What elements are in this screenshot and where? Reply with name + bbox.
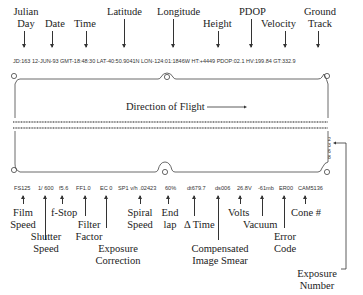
label-line: Speed — [28, 243, 64, 254]
value-end-lap: 60% — [165, 185, 176, 191]
exposure-digit: 8 — [328, 154, 331, 160]
label-longitude: Longitude — [157, 6, 200, 17]
label-julian-day: Julian Day — [11, 6, 41, 29]
arrow-error-code — [284, 196, 285, 228]
label-ground-line1: Ground — [300, 6, 340, 17]
label-line: Filter — [72, 219, 106, 230]
label-delta-time: Δ Time — [184, 219, 215, 230]
label-f-stop: f-Stop — [51, 207, 77, 218]
arrow-date — [52, 31, 53, 47]
arrow-filter-factor — [85, 196, 86, 216]
label-julian-line1: Julian — [11, 6, 41, 17]
value-shutter-speed: 1/ 600 — [38, 185, 54, 191]
label-ground-track: Ground Track — [300, 6, 340, 29]
label-line: Error — [270, 231, 300, 242]
arrow-cone — [305, 196, 306, 204]
arrow-longitude — [173, 19, 174, 47]
label-error-code: Error Code — [270, 231, 300, 254]
top-data-strip: JD:163 12-JUN-93 GMT-18:48:30 LAT-40:50.… — [13, 58, 296, 64]
label-line: lap — [160, 219, 180, 230]
arrow-julian-day — [24, 31, 25, 47]
label-line: Speed — [123, 219, 157, 230]
arrow-spiral-speed — [140, 196, 141, 204]
label-line: Compensated — [190, 243, 250, 254]
arrow-delta-time — [194, 196, 195, 216]
label-line: Speed — [8, 219, 38, 230]
label-pdop: PDOP — [239, 6, 266, 17]
label-line: Shutter — [28, 231, 64, 242]
value-f-stop: f5.6 — [59, 185, 68, 191]
label-line: Code — [270, 243, 300, 254]
arrow-ground-track — [318, 31, 319, 47]
value-delta-time: dt679.7 — [187, 185, 206, 191]
label-date: Date — [45, 18, 65, 29]
label-cone: Cone # — [291, 207, 321, 218]
label-line: Correction — [93, 255, 143, 266]
arrow-end-lap — [168, 196, 169, 204]
label-line: Factor — [72, 231, 106, 242]
label-line: Exposure — [93, 243, 143, 254]
arrow-volts — [240, 196, 241, 204]
value-ims: ds006 — [215, 185, 230, 191]
label-latitude: Latitude — [107, 6, 142, 17]
arrow-height — [218, 31, 219, 47]
arrow-vacuum — [262, 196, 263, 216]
label-ground-line2: Track — [300, 18, 340, 29]
value-cone: CAM5136 — [298, 185, 323, 191]
label-line: Image Smear — [190, 255, 250, 266]
label-velocity: Velocity — [261, 18, 296, 29]
label-end-lap: End lap — [160, 207, 180, 230]
value-error-code: ER00 — [279, 185, 293, 191]
arrow-exposure-correction — [106, 196, 107, 228]
value-exposure-correction: EC 0 — [100, 185, 112, 191]
label-line: Film — [8, 207, 38, 218]
value-vacuum: -61mb — [258, 185, 274, 191]
value-filter-factor: FF1.0 — [76, 185, 91, 191]
direction-of-flight-label: Direction of Flight — [126, 101, 205, 112]
arrow-velocity — [285, 31, 286, 47]
arrow-latitude — [124, 19, 125, 47]
value-spiral-speed: SP1 v/h .02423 — [118, 185, 156, 191]
label-film-speed: Film Speed — [8, 207, 38, 230]
arrow-film-speed — [23, 196, 24, 204]
exposure-number-digits: 2 3 6 8 — [328, 136, 331, 160]
label-julian-line2: Day — [11, 18, 41, 29]
label-filter-factor: Filter Factor — [72, 219, 106, 242]
arrow-ims — [218, 196, 219, 240]
label-time: Time — [74, 18, 96, 29]
label-line: Number — [292, 280, 342, 291]
value-film-speed: FS125 — [14, 185, 30, 191]
label-line: End — [160, 207, 180, 218]
value-volts: 26.8V — [237, 185, 252, 191]
label-exposure-number: Exposure Number — [292, 268, 342, 291]
label-ims: Compensated Image Smear — [190, 243, 250, 266]
label-exposure-correction: Exposure Correction — [93, 243, 143, 266]
label-shutter-speed: Shutter Speed — [28, 231, 64, 254]
arrow-time — [86, 31, 87, 47]
arrow-f-stop — [62, 196, 63, 204]
label-height: Height — [203, 18, 232, 29]
label-line: Spiral — [123, 207, 157, 218]
arrow-pdop — [251, 19, 252, 47]
label-spiral-speed: Spiral Speed — [123, 207, 157, 230]
label-volts: Volts — [228, 207, 249, 218]
label-vacuum: Vacuum — [243, 219, 277, 230]
label-line: Exposure — [292, 268, 342, 279]
